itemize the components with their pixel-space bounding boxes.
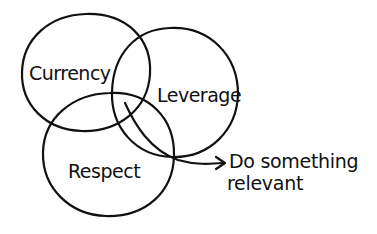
label-leverage: Leverage <box>157 84 241 106</box>
label-currency: Currency <box>29 62 111 84</box>
label-respect: Respect <box>68 160 140 182</box>
callout-text-line2: relevant <box>227 172 303 194</box>
callout-text-line1: Do something <box>229 150 358 172</box>
venn-diagram: Currency Leverage Respect Do something r… <box>0 0 377 234</box>
